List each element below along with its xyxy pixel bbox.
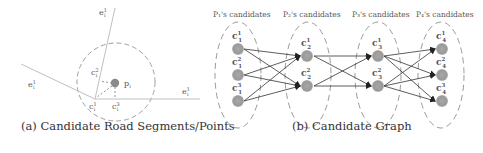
svg-text:c13: c13 bbox=[372, 37, 382, 50]
candidate-node-c1-4: c14 bbox=[436, 30, 448, 55]
candidate-node-c1-3: c13 bbox=[372, 37, 384, 62]
candidate-node-c2-4: c24 bbox=[436, 56, 448, 81]
column-header-p3: P₃'s candidates bbox=[352, 10, 410, 19]
svg-text:c14: c14 bbox=[436, 30, 446, 43]
panel-a-road-segments: e1i e1i e1i c2i c1i c3i pi bbox=[21, 7, 200, 121]
svg-text:c23: c23 bbox=[372, 67, 382, 80]
label-e1-upper: e1i bbox=[99, 7, 107, 18]
svg-text:c21: c21 bbox=[232, 56, 242, 69]
svg-text:c34: c34 bbox=[436, 82, 446, 95]
label-c-i-3: c3i bbox=[112, 101, 120, 112]
caption-panel-b: (b) Candidate Graph bbox=[292, 119, 412, 133]
candidate-node-c2-3: c23 bbox=[372, 67, 384, 92]
label-e1-right: e1i bbox=[182, 86, 190, 97]
label-e1-left: e1i bbox=[28, 79, 36, 90]
edges-p1-p2 bbox=[244, 49, 300, 101]
svg-text:c24: c24 bbox=[436, 56, 446, 69]
svg-text:c31: c31 bbox=[232, 82, 242, 95]
projection-to-c1 bbox=[97, 86, 112, 97]
label-c-i-1: c1i bbox=[89, 101, 97, 112]
candidate-node-c3-1: c31 bbox=[232, 82, 244, 107]
svg-text:c11: c11 bbox=[232, 30, 242, 43]
projection-to-c2 bbox=[100, 81, 112, 83]
column-header-p4: P₄'s candidates bbox=[416, 10, 474, 19]
candidate-node-c1-1: c11 bbox=[232, 30, 244, 55]
label-p-i: pi bbox=[124, 79, 131, 89]
panel-b-candidate-graph: P₁'s candidates P₂'s candidates P₃'s can… bbox=[213, 10, 474, 128]
edges-p3-p4 bbox=[384, 49, 435, 101]
svg-text:c12: c12 bbox=[301, 37, 311, 50]
svg-text:c22: c22 bbox=[301, 67, 311, 80]
column-header-p2: P₂'s candidates bbox=[283, 10, 341, 19]
candidate-node-c2-2: c22 bbox=[301, 67, 313, 92]
label-c-i-2: c2i bbox=[91, 67, 99, 78]
gps-point-pi bbox=[111, 79, 119, 87]
candidate-node-c1-2: c12 bbox=[301, 37, 313, 62]
caption-panel-a: (a) Candidate Road Segments/Points bbox=[21, 119, 235, 133]
edges-p2-p3 bbox=[314, 56, 371, 86]
candidate-node-c3-4: c34 bbox=[436, 82, 448, 107]
figure: e1i e1i e1i c2i c1i c3i pi P₁'s candidat… bbox=[0, 0, 483, 153]
column-header-p1: P₁'s candidates bbox=[213, 10, 271, 19]
candidate-node-c2-1: c21 bbox=[232, 56, 244, 81]
